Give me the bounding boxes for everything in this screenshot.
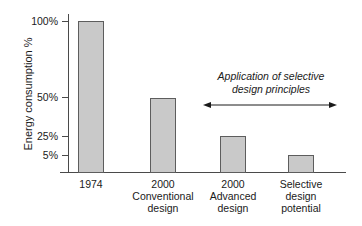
x-label-2000-conventional-line-2: Conventional xyxy=(126,190,200,202)
annotation-line-1: Application of selective xyxy=(196,70,346,83)
y-tick-mark-25 xyxy=(62,136,69,137)
bar-2000-advanced xyxy=(220,136,246,173)
x-label-1974: 1974 xyxy=(56,178,126,190)
y-tick-mark-5 xyxy=(62,155,69,156)
bar-selective-potential xyxy=(288,155,314,173)
bar-1974 xyxy=(78,21,104,173)
x-label-selective-potential-line-2: design xyxy=(265,190,337,202)
y-tick-label-50: 50% xyxy=(20,92,58,102)
y-tick-mark-50 xyxy=(62,97,69,98)
energy-consumption-bar-chart: Energy consumption % 100% 50% 25% 5% 197… xyxy=(0,0,362,226)
x-label-2000-conventional: 2000 Conventional design xyxy=(126,178,200,214)
x-label-2000-advanced-line-3: design xyxy=(198,202,268,214)
y-tick-mark-100 xyxy=(62,21,69,22)
x-label-2000-conventional-line-3: design xyxy=(126,202,200,214)
x-label-2000-advanced-line-2: Advanced xyxy=(198,190,268,202)
x-label-2000-conventional-line-1: 2000 xyxy=(126,178,200,190)
x-label-2000-advanced: 2000 Advanced design xyxy=(198,178,268,214)
x-label-selective-potential-line-1: Selective xyxy=(265,178,337,190)
y-tick-label-25: 25% xyxy=(20,131,58,141)
bar-2000-conventional xyxy=(150,98,176,173)
y-tick-label-100: 100% xyxy=(20,16,58,26)
annotation-line-2: design principles xyxy=(196,83,346,96)
x-label-selective-potential: Selective design potential xyxy=(265,178,337,214)
x-label-1974-line-1: 1974 xyxy=(56,178,126,190)
annotation-label: Application of selective design principl… xyxy=(196,70,346,95)
y-axis-line xyxy=(68,14,69,172)
y-tick-label-5: 5% xyxy=(20,150,58,160)
annotation-double-arrow-icon xyxy=(203,99,337,111)
x-label-selective-potential-line-3: potential xyxy=(265,202,337,214)
x-label-2000-advanced-line-1: 2000 xyxy=(198,178,268,190)
